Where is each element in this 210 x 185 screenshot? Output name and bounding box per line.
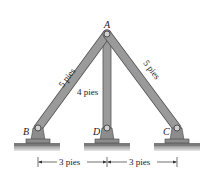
member-ac: [107, 34, 177, 128]
dimension-label-bd: 3 pies: [59, 157, 81, 167]
joint-label-a: A: [103, 19, 111, 30]
joint-label-d: D: [92, 126, 101, 137]
ground-c: [154, 143, 200, 151]
truss-diagram: A B D C 5 pies 4 pies 5 pies 3 pies 3 pi…: [0, 0, 210, 185]
ground-b: [14, 143, 60, 151]
ground-d: [84, 143, 130, 151]
joint-label-c: C: [163, 126, 170, 137]
joint-label-b: B: [23, 126, 29, 137]
member-ab: [38, 34, 107, 128]
dimension-label-dc: 3 pies: [129, 157, 151, 167]
pin-a: [104, 31, 110, 37]
member-label-ad: 4 pies: [77, 87, 99, 97]
member-ad: [103, 36, 111, 128]
support-b: [26, 125, 50, 143]
